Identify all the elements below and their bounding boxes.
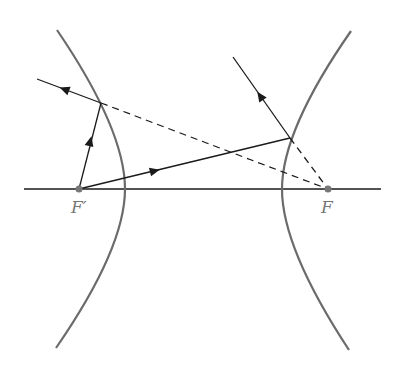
left-focus-point: [76, 186, 83, 193]
arrow-icon: [85, 135, 96, 147]
left-focus-label: F′: [70, 197, 87, 217]
hyperbola-reflection-diagram: F′ F: [0, 0, 404, 369]
hyperbola-right-branch: [282, 31, 351, 350]
arrow-icon: [254, 89, 267, 102]
arrow-icon: [149, 165, 161, 176]
arrow-icon: [58, 83, 71, 95]
right-focus-point: [325, 186, 332, 193]
right-focus-label: F: [320, 197, 334, 217]
incident-ray-right: [79, 138, 290, 189]
